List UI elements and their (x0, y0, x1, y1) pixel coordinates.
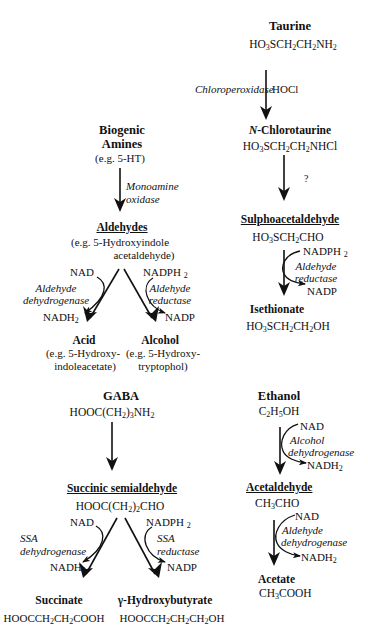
enzyme-aldehyde-dehydrogenase-line2: dehydrogenase (23, 294, 89, 306)
enzyme-monoamine-oxidase-line1: Monoamine (126, 180, 179, 192)
alcohol-example-line2: tryptophol) (138, 360, 188, 372)
enzyme-ssa-dehydrogenase-line2: dehydrogenase (20, 545, 86, 557)
isethionate-formula: HO3SCH2CH2OH (246, 320, 330, 332)
acetate-formula: CH3COOH (259, 587, 312, 599)
acetaldehyde-formula: CH3CHO (255, 497, 299, 509)
enzyme-aldehyde-reductase-line1: Aldehyde (296, 260, 337, 272)
aldehydes-name: Aldehydes (96, 221, 147, 233)
acid-example-line1: (e.g. 5-Hydroxy- (46, 347, 120, 359)
aldehydes-example-line1: (e.g. 5-Hydroxyindole (71, 236, 169, 248)
enzyme-aldehyde-dehydrogenase2-line1: Aldehyde (282, 524, 323, 536)
cofactor-nad-ssa: NAD (70, 516, 94, 528)
enzyme-alcohol-dehydrogenase-line1: Alcohol (290, 434, 324, 446)
cofactor-nadh2-ssa: NADH2 (50, 561, 86, 573)
ghb-formula: HOOCCH2CH2CH2OH (120, 612, 225, 624)
succinate-formula: HOOCCH2CH2COOH (4, 612, 105, 624)
sulphoacetaldehyde-name: Sulphoacetaldehyde (241, 213, 339, 225)
acetaldehyde-name: Acetaldehyde (246, 481, 312, 493)
alcohol-name: Alcohol (141, 334, 179, 346)
n-chlorotaurine-name: N-Chlorotaurine (249, 124, 331, 136)
enzyme-ssa-reductase-line2: reductase (157, 545, 199, 557)
cofactor-nadh2-left: NADH2 (43, 311, 79, 323)
enzyme-aldehyde-reductase-line2: reductase (149, 294, 191, 306)
cofactor-nad-left: NAD (70, 266, 94, 278)
succinate-name: Succinate (35, 594, 82, 606)
cofactor-nadh2-ethanol: NADH2 (307, 459, 343, 471)
cofactor-hocl: HOCl (272, 83, 298, 95)
succinic-semialdehyde-formula: HOOC(CH2)2CHO (76, 500, 165, 512)
cofactor-nadp: NADP (307, 285, 337, 297)
enzyme-ssa-dehydrogenase-line1: SSA (20, 532, 38, 544)
cofactor-nadh2-acetaldehyde: NADH2 (301, 551, 337, 563)
acid-example-line2: indoleacetate) (54, 360, 116, 372)
enzyme-ssa-reductase-line1: SSA (157, 532, 175, 544)
unknown-step-label: ? (304, 173, 308, 185)
biogenic-amines-name-line1: Biogenic (99, 124, 145, 136)
enzyme-chloroperoxidase: Chloroperoxidase (195, 83, 274, 95)
aldehydes-example-line2: acetaldehyde) (113, 249, 174, 261)
gaba-formula: HOOC(CH2)3NH2 (70, 406, 155, 418)
gaba-name: GABA (103, 390, 139, 402)
cofactor-nadph2-ssa: NADPH 2 (146, 516, 191, 528)
biogenic-amines-name-line2: Amines (102, 138, 142, 150)
taurine-formula: HO3SCH2CH2NH2 (249, 38, 337, 50)
ghb-name: γ-Hydroxybutyrate (118, 594, 213, 606)
enzyme-alcohol-dehydrogenase-line2: dehydrogenase (288, 446, 354, 458)
ethanol-formula: C2H5OH (259, 405, 300, 417)
ethanol-name: Ethanol (258, 390, 300, 402)
succinic-semialdehyde-name: Succinic semialdehyde (67, 482, 177, 494)
enzyme-aldehyde-dehydrogenase2-line2: dehydrogenase (281, 536, 347, 548)
enzyme-aldehyde-dehydrogenase-line1: Aldehyde (36, 282, 77, 294)
cofactor-nadp-ssa: NADP (167, 561, 197, 573)
enzyme-aldehyde-reductase-line1: Aldehyde (150, 282, 191, 294)
cofactor-nadph2-right: NADPH 2 (143, 266, 188, 278)
alcohol-example-line1: (e.g. 5-Hydroxy- (126, 347, 200, 359)
taurine-name: Taurine (269, 20, 311, 32)
acid-name: Acid (73, 334, 96, 346)
enzyme-monoamine-oxidase-line2: oxidase (126, 193, 160, 205)
sulphoacetaldehyde-formula: HO3SCH2CHO (252, 231, 323, 243)
biogenic-amines-example: (e.g. 5-HT) (95, 152, 145, 164)
cofactor-nadph2: NADPH 2 (303, 245, 348, 257)
cofactor-nad-ethanol: NAD (300, 420, 324, 432)
enzyme-aldehyde-reductase-line2: reductase (295, 272, 337, 284)
isethionate-name: Isethionate (250, 303, 304, 315)
cofactor-nad-acetaldehyde: NAD (295, 510, 319, 522)
cofactor-nadp-right: NADP (165, 311, 195, 323)
n-chlorotaurine-formula: HO3SCH2CH2NHCl (243, 140, 337, 152)
acetate-name: Acetate (258, 573, 295, 585)
